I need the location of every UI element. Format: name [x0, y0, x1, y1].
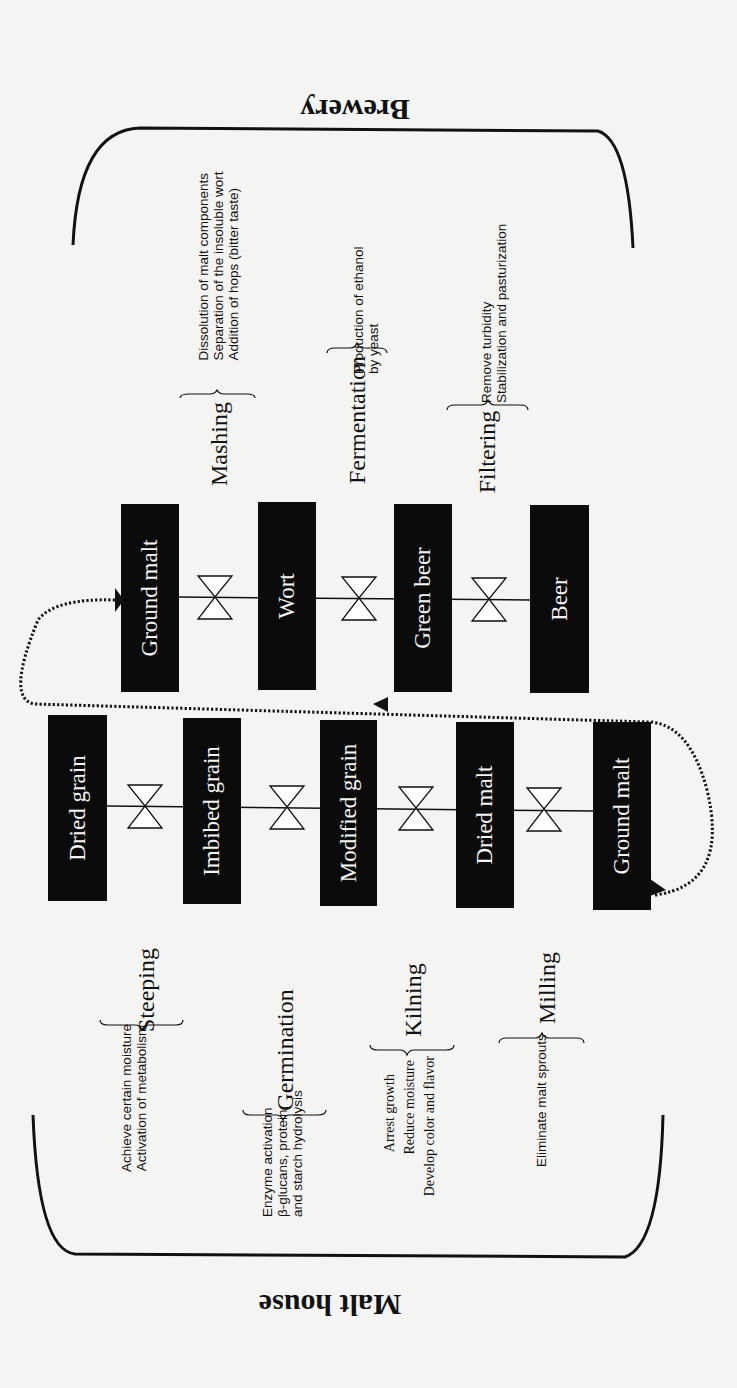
- box-ground-malt-malthouse: Ground malt: [593, 722, 651, 910]
- box-label: Dried malt: [472, 766, 498, 865]
- box-green-beer: Green beer: [394, 504, 452, 692]
- brewery-flow-line: [179, 597, 530, 600]
- process-filtering: Filtering: [474, 411, 501, 494]
- detail-line: Stabilization and pasturization: [494, 243, 509, 403]
- process-fermentation: Fermentation: [344, 356, 371, 484]
- box-label: Beer: [547, 577, 573, 620]
- filtering-details: Remove turbidity Stabilization and pastu…: [479, 243, 509, 403]
- box-dried-grain: Dried grain: [48, 715, 107, 901]
- detail-line: Production of ethanol: [351, 174, 366, 374]
- fermentation-details: Production of ethanol by yeast: [351, 174, 381, 374]
- detail-line: Remove turbidity: [479, 243, 494, 403]
- brace-icon: [180, 390, 255, 398]
- box-label: Modified grain: [336, 744, 362, 883]
- box-wort: Wort: [258, 502, 316, 690]
- process-kilning: Kilning: [400, 963, 427, 1036]
- detail-line: Dissolution of malt components: [196, 171, 211, 360]
- box-label: Green beer: [410, 547, 436, 649]
- process-mashing: Mashing: [206, 402, 233, 486]
- box-dried-malt: Dried malt: [456, 722, 514, 908]
- mashing-details: Dissolution of malt components Separatio…: [196, 171, 241, 360]
- malt-house-title: Malt house: [259, 1288, 402, 1322]
- milling-details: Eliminate malt sprouts: [534, 1037, 549, 1167]
- box-label: Ground malt: [137, 540, 163, 657]
- process-milling: Milling: [534, 952, 561, 1024]
- box-label: Dried grain: [65, 755, 91, 860]
- kilning-details: Arrest growth Reduce moisture Develop co…: [380, 1056, 440, 1206]
- detail-line: Separation of the insoluble wort: [211, 171, 226, 360]
- brace-icon: [370, 1045, 454, 1055]
- detail-line: Eliminate malt sprouts: [534, 1037, 549, 1167]
- germination-details: Enzyme activation β-glucans, protein, an…: [260, 1107, 305, 1217]
- detail-line: Develop color and flavor: [420, 1056, 440, 1206]
- detail-line: Activation of metabolism: [134, 1018, 149, 1178]
- box-label: Wort: [274, 573, 300, 618]
- steeping-details: Achieve certain moisture Activation of m…: [119, 1018, 149, 1178]
- box-ground-malt-brewery: Ground malt: [121, 504, 179, 692]
- brewery-title: Brewery: [300, 93, 409, 127]
- arrow-icon: [373, 697, 388, 712]
- box-imbibed-grain: Imbibed grain: [183, 718, 241, 904]
- detail-line: Arrest growth: [380, 1056, 400, 1206]
- detail-line: Enzyme activation: [260, 1107, 275, 1217]
- arrow-icon: [650, 879, 666, 896]
- detail-line: Addition of hops (bitter taste): [226, 171, 241, 360]
- valve-icon: [527, 788, 561, 831]
- detail-line: β-glucans, protein,: [275, 1107, 290, 1217]
- detail-line: Achieve certain moisture: [119, 1018, 134, 1178]
- box-modified-grain: Modified grain: [320, 720, 377, 906]
- detail-line: and starch hydrolysis: [290, 1107, 305, 1217]
- detail-line: Reduce moisture: [400, 1056, 420, 1206]
- box-label: Ground malt: [609, 758, 635, 875]
- box-label: Imbibed grain: [199, 746, 225, 876]
- box-beer: Beer: [530, 505, 589, 693]
- detail-line: by yeast: [366, 174, 381, 374]
